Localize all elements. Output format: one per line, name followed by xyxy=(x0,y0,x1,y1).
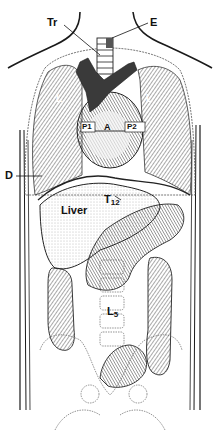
label-pulmonary-1: P1 xyxy=(82,123,92,131)
label-trachea: Tr xyxy=(47,17,57,28)
label-liver: Liver xyxy=(61,205,87,216)
trachea xyxy=(97,38,113,74)
anatomy-diagram xyxy=(0,0,220,430)
colon-sigmoid xyxy=(100,345,147,387)
lung-right xyxy=(33,65,82,195)
label-t12-main: T xyxy=(104,193,111,205)
label-diaphragm: D xyxy=(5,170,13,181)
label-aorta: A xyxy=(104,123,111,132)
label-t12: T12 xyxy=(104,194,120,207)
colon-ascending xyxy=(48,268,74,350)
label-l5-sub: 5 xyxy=(114,310,118,319)
lung-left xyxy=(138,66,191,195)
label-pulmonary-2: P2 xyxy=(127,123,137,131)
label-l5: L5 xyxy=(107,306,118,319)
label-l5-main: L xyxy=(107,305,114,317)
label-esophagus: E xyxy=(150,17,157,28)
label-lung-right: L xyxy=(56,94,62,104)
label-lung-left: L xyxy=(146,94,152,104)
colon-descending xyxy=(147,257,172,375)
label-t12-sub: 12 xyxy=(111,198,120,207)
